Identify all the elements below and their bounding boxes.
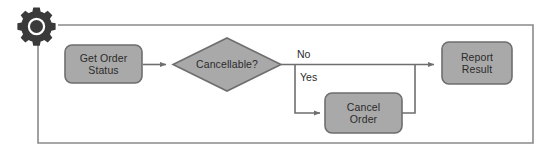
edge-cancel-order-to-report-result [402, 65, 415, 114]
node-report-result[interactable] [442, 42, 512, 84]
edge-label-no: No [297, 48, 310, 60]
node-get-order-status[interactable] [65, 45, 142, 83]
flowchart-canvas: Get Order Status Cancellable? Cancel Ord… [0, 0, 547, 147]
gear-icon [17, 7, 55, 45]
edge-label-yes: Yes [300, 71, 317, 83]
flowchart-graphics [0, 0, 547, 147]
node-cancellable[interactable] [173, 38, 281, 91]
node-cancel-order[interactable] [325, 93, 402, 133]
